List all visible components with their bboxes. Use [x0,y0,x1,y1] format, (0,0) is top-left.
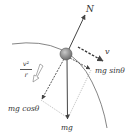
normal-force-arrow [68,15,85,51]
centripetal-acceleration-label: v² r [20,60,32,79]
velocity-label: v [105,48,110,56]
velocity-arrow [78,47,103,61]
fraction-numerator: v² [20,60,32,70]
centripetal-acceleration-icon [33,64,43,82]
radial-component-arrow [42,59,64,99]
normal-force-label: N [86,5,94,14]
construction-line [68,70,91,118]
tangential-component-label: mg sinθ [95,67,125,75]
weight-arrow [67,58,68,119]
ball [60,48,72,60]
fraction-denominator: r [20,70,32,79]
tangential-component-arrow [70,58,90,69]
weight-label: mg [61,124,73,132]
radial-component-label: mg cosθ [8,105,39,113]
construction-line [41,100,68,118]
